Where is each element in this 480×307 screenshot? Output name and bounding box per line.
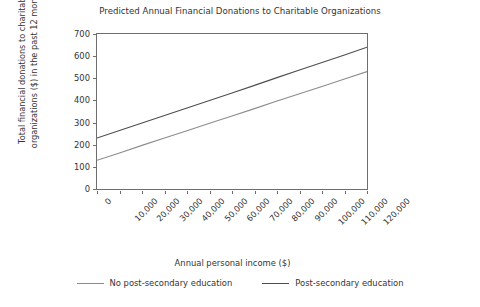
x-tick-mark: [322, 191, 323, 194]
x-tick-label: 80,000: [289, 196, 316, 223]
x-tick-label: 40,000: [199, 196, 226, 223]
x-tick-mark: [277, 191, 278, 194]
y-axis-label-line1: Total financial donations to charitable: [16, 0, 28, 162]
series-line-0: [97, 72, 367, 161]
legend-line-icon: [262, 283, 289, 284]
y-tick-label: 0: [56, 184, 90, 194]
y-tick-mark: [93, 56, 96, 57]
y-tick-mark: [93, 167, 96, 168]
y-tick-mark: [93, 100, 96, 101]
y-tick-label: 600: [56, 51, 90, 61]
x-tick-mark: [97, 191, 98, 194]
x-tick-mark: [300, 191, 301, 194]
x-tick-mark: [142, 191, 143, 194]
x-tick-mark: [232, 191, 233, 194]
y-tick-mark: [93, 123, 96, 124]
legend-item-1[interactable]: Post-secondary education: [262, 278, 403, 288]
x-tick-mark: [345, 191, 346, 194]
x-tick-mark: [367, 191, 368, 194]
x-tick-label: 20,000: [154, 196, 181, 223]
x-axis-label: Annual personal income ($): [95, 258, 370, 268]
y-tick-label: 400: [56, 95, 90, 105]
chart-figure: Predicted Annual Financial Donations to …: [0, 0, 480, 307]
chart-legend: No post-secondary educationPost-secondar…: [0, 278, 480, 288]
plot-area: [96, 33, 368, 190]
x-tick-label: 0: [103, 196, 114, 207]
y-tick-mark: [93, 145, 96, 146]
y-tick-label: 100: [56, 162, 90, 172]
x-tick-mark: [120, 191, 121, 194]
y-tick-mark: [93, 34, 96, 35]
legend-label: Post-secondary education: [295, 278, 403, 288]
x-tick-label: 70,000: [267, 196, 294, 223]
y-tick-label: 700: [56, 29, 90, 39]
y-tick-mark: [93, 78, 96, 79]
x-tick-label: 60,000: [244, 196, 271, 223]
y-tick-mark: [93, 189, 96, 190]
x-tick-label: 50,000: [222, 196, 249, 223]
y-axis-label-line2: organizations ($) in the past 12 months: [28, 0, 40, 162]
plot-lines: [97, 34, 367, 189]
x-tick-mark: [210, 191, 211, 194]
legend-item-0[interactable]: No post-secondary education: [77, 278, 233, 288]
x-tick-label: 30,000: [177, 196, 204, 223]
y-axis-label: Total financial donations to charitable …: [16, 0, 40, 162]
x-tick-mark: [165, 191, 166, 194]
y-tick-label: 200: [56, 140, 90, 150]
chart-title: Predicted Annual Financial Donations to …: [0, 6, 480, 16]
x-tick-mark: [187, 191, 188, 194]
series-line-1: [97, 47, 367, 138]
legend-label: No post-secondary education: [110, 278, 233, 288]
y-tick-label: 500: [56, 73, 90, 83]
x-tick-label: 10,000: [132, 196, 159, 223]
y-tick-label: 300: [56, 118, 90, 128]
legend-line-icon: [77, 283, 104, 284]
x-tick-mark: [255, 191, 256, 194]
